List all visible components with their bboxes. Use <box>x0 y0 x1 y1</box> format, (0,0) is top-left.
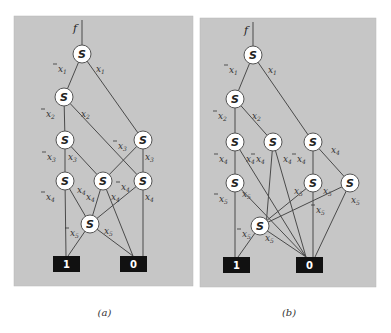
switch-node: S <box>134 131 152 149</box>
svg-text:S: S <box>231 136 239 149</box>
panel-background <box>14 16 193 286</box>
svg-text:S: S <box>269 136 277 149</box>
switch-node: S <box>226 90 244 108</box>
switch-node: S <box>73 45 91 63</box>
panel-background <box>200 18 376 287</box>
svg-text:S: S <box>86 218 94 231</box>
svg-text:S: S <box>78 48 86 61</box>
svg-text:S: S <box>249 49 257 62</box>
panel-caption: (b) <box>282 307 296 318</box>
switch-node: S <box>134 172 152 190</box>
switch-node: S <box>264 133 282 151</box>
svg-text:S: S <box>231 177 239 190</box>
svg-text:S: S <box>139 175 147 188</box>
svg-text:S: S <box>346 177 354 190</box>
svg-text:1: 1 <box>63 259 70 270</box>
svg-text:0: 0 <box>306 260 313 271</box>
panel-a: fx1x1x2x2x3x3x3x3x4x4x4x4x4x4x5x510SSSSS… <box>14 16 193 286</box>
diagram-canvas: fx1x1x2x2x3x3x3x3x4x4x4x4x4x4x5x510SSSSS… <box>0 0 391 333</box>
svg-text:S: S <box>256 220 264 233</box>
terminal-node-1: 1 <box>223 257 250 273</box>
terminal-node-0: 0 <box>120 256 147 272</box>
svg-text:0: 0 <box>130 259 137 270</box>
switch-node: S <box>94 172 112 190</box>
svg-text:S: S <box>231 93 239 106</box>
svg-text:S: S <box>139 134 147 147</box>
panel-b: fx1x1x2x2x4x4x4x4x4x4x5x5x5x5x5x5x5x510S… <box>200 18 376 287</box>
switch-node: S <box>81 215 99 233</box>
switch-node: S <box>56 172 74 190</box>
svg-text:S: S <box>99 175 107 188</box>
terminal-node-0: 0 <box>296 257 323 273</box>
switch-node: S <box>304 133 322 151</box>
switch-node: S <box>226 174 244 192</box>
svg-text:S: S <box>61 134 69 147</box>
switch-node: S <box>304 174 322 192</box>
switch-node: S <box>226 133 244 151</box>
switch-node: S <box>341 174 359 192</box>
svg-text:S: S <box>60 91 68 104</box>
svg-text:1: 1 <box>233 260 240 271</box>
switch-node: S <box>56 131 74 149</box>
switch-node: S <box>55 88 73 106</box>
svg-text:S: S <box>309 136 317 149</box>
svg-text:S: S <box>309 177 317 190</box>
switch-node: S <box>244 46 262 64</box>
panel-caption: (a) <box>98 307 112 318</box>
terminal-node-1: 1 <box>53 256 80 272</box>
svg-text:S: S <box>61 175 69 188</box>
switch-node: S <box>251 217 269 235</box>
